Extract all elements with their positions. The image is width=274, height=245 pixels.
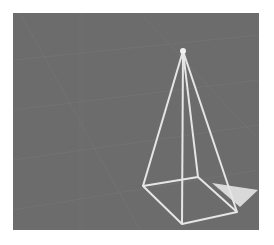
apex-point — [180, 48, 186, 54]
pyramid-wireframe — [143, 51, 237, 224]
pyramid-scene — [0, 0, 274, 245]
